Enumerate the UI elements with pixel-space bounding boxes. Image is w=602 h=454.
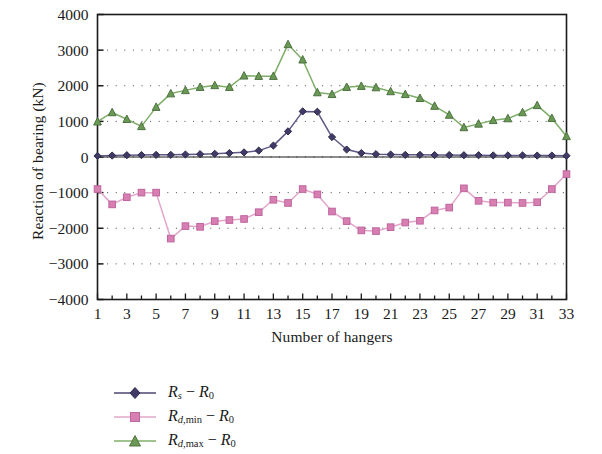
x-tick-label: 27 [471, 305, 487, 322]
data-point-square [417, 217, 424, 224]
data-point-square [373, 228, 380, 235]
x-tick-label: 33 [559, 305, 575, 322]
data-point-square [505, 199, 512, 206]
legend-marker-square [112, 408, 158, 426]
y-tick-label: 4000 [58, 6, 89, 23]
x-axis-label: Number of hangers [97, 328, 567, 346]
data-point-square [299, 186, 306, 193]
y-tick-label: 2000 [58, 77, 89, 94]
x-tick-label: 3 [123, 305, 131, 322]
data-point-square [461, 185, 468, 192]
legend-label-rs: Rs − R0 [168, 384, 214, 402]
data-point-square [211, 218, 218, 225]
data-point-square [109, 201, 116, 208]
x-tick-label: 7 [182, 305, 190, 322]
y-tick-label: −2000 [49, 220, 89, 237]
data-point-square [329, 208, 336, 215]
y-tick-label: −1000 [49, 184, 89, 201]
data-point-square [431, 207, 438, 214]
x-tick-label: 29 [500, 305, 516, 322]
data-point-square [167, 235, 174, 242]
data-point-square [124, 194, 131, 201]
legend-marker-diamond [112, 384, 158, 402]
data-point-square [285, 200, 292, 207]
data-point-square [343, 218, 350, 225]
data-point-square [314, 191, 321, 198]
legend-label-rdmax: Rd,max − R0 [168, 432, 236, 450]
data-point-square [241, 216, 248, 223]
y-tick-label: 3000 [58, 42, 89, 59]
x-tick-label: 19 [354, 305, 370, 322]
data-point-square [563, 171, 570, 178]
legend-marker-triangle [112, 432, 158, 450]
data-point-square [534, 199, 541, 206]
data-point-square [387, 224, 394, 231]
data-point-square [519, 200, 526, 207]
legend-item-rs: Rs − R0 [112, 381, 412, 405]
data-point-square [402, 219, 409, 226]
y-tick-label: −4000 [49, 291, 89, 308]
data-point-square [270, 196, 277, 203]
chart-figure: 40003000200010000−1000−2000−3000−4000135… [0, 0, 602, 454]
data-point-square [94, 186, 101, 193]
x-tick-label: 15 [295, 305, 311, 322]
x-tick-label: 13 [266, 305, 282, 322]
x-tick-label: 25 [442, 305, 458, 322]
data-point-square [138, 189, 145, 196]
x-tick-label: 1 [94, 305, 102, 322]
data-point-square [358, 227, 365, 234]
x-tick-label: 17 [324, 305, 340, 322]
data-point-square [226, 217, 233, 224]
legend-item-rdmin: Rd,min − R0 [112, 405, 412, 429]
y-tick-label: −3000 [49, 255, 89, 272]
legend-label-rdmin: Rd,min − R0 [168, 408, 234, 426]
legend-item-rdmax: Rd,max − R0 [112, 429, 412, 453]
data-point-square [475, 198, 482, 205]
x-tick-label: 5 [152, 305, 160, 322]
data-point-square [197, 224, 204, 231]
y-axis-label: Reaction of bearing (kN) [29, 31, 47, 291]
y-tick-label: 1000 [58, 113, 89, 130]
data-point-square [490, 199, 497, 206]
x-tick-label: 23 [412, 305, 428, 322]
x-tick-label: 31 [529, 305, 545, 322]
x-tick-label: 9 [211, 305, 219, 322]
y-tick-label: 0 [81, 149, 89, 166]
chart-legend: Rs − R0 Rd,min − R0 Rd,max − R0 [112, 381, 412, 453]
data-point-square [446, 204, 453, 211]
x-tick-label: 21 [383, 305, 399, 322]
data-point-square [549, 186, 556, 193]
data-point-square [153, 189, 160, 196]
data-point-square [182, 223, 189, 230]
data-point-square [255, 209, 262, 216]
x-tick-label: 11 [237, 305, 252, 322]
